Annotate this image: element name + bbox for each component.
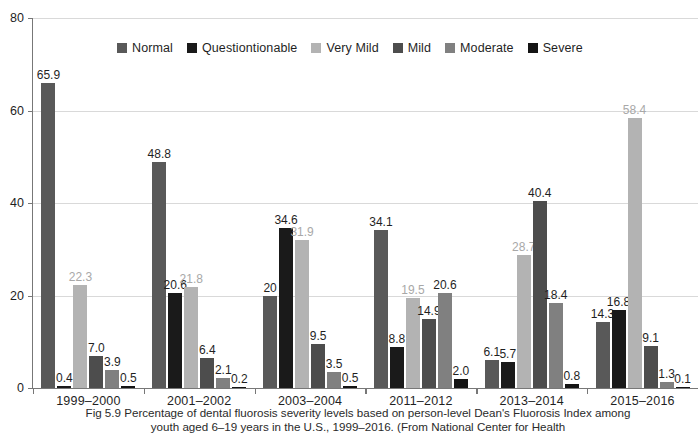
bar-slot: 1.3 xyxy=(660,18,674,388)
bar-slot: 0.4 xyxy=(57,18,71,388)
bar-value-label: 0.4 xyxy=(56,372,73,384)
bar-slot: 9.5 xyxy=(311,18,325,388)
bar-slot: 5.7 xyxy=(501,18,515,388)
bar-group: 65.90.422.37.03.90.5 xyxy=(33,18,144,388)
bar-slot: 0.5 xyxy=(121,18,135,388)
bar-slot: 34.1 xyxy=(374,18,388,388)
caption-line-1: Percentage of dental fluorosis severity … xyxy=(121,406,560,419)
bar-slot: 34.6 xyxy=(279,18,293,388)
bar-value-label: 8.8 xyxy=(389,333,406,345)
y-tick-label: 20 xyxy=(10,289,24,303)
bar-group: 2034.631.99.53.50.5 xyxy=(255,18,366,388)
bar[interactable] xyxy=(152,162,166,388)
y-tick-label: 80 xyxy=(10,11,24,25)
bar-value-label: 2.0 xyxy=(453,365,470,377)
bar[interactable] xyxy=(216,378,230,388)
plot-wrapper: 020406080 65.90.422.37.03.90.548.820.621… xyxy=(0,0,700,392)
bar-slot: 0.2 xyxy=(232,18,246,388)
bar-value-label: 6.1 xyxy=(483,346,500,358)
caption-figure-number: Fig 5.9 xyxy=(86,406,121,419)
bar-slot: 2.1 xyxy=(216,18,230,388)
bar-slot: 3.5 xyxy=(327,18,341,388)
bar-slot: 20.6 xyxy=(438,18,452,388)
bar[interactable] xyxy=(89,356,103,388)
bar-slot: 58.4 xyxy=(628,18,642,388)
bar[interactable] xyxy=(295,240,309,388)
bar[interactable] xyxy=(311,344,325,388)
figure-caption: Fig 5.9 Percentage of dental fluorosis s… xyxy=(78,406,638,435)
bar-slot: 65.9 xyxy=(41,18,55,388)
bar[interactable] xyxy=(184,287,198,388)
bar-value-label: 0.1 xyxy=(674,373,691,385)
bar[interactable] xyxy=(517,255,531,388)
bar[interactable] xyxy=(73,285,87,388)
bar-value-label: 9.5 xyxy=(310,330,327,342)
bar[interactable] xyxy=(565,384,579,388)
bar[interactable] xyxy=(232,387,246,389)
bar-slot: 20.6 xyxy=(168,18,182,388)
bar-slot: 20 xyxy=(263,18,277,388)
bar-slot: 16.8 xyxy=(612,18,626,388)
bar-value-label: 1.3 xyxy=(658,368,675,380)
bar-value-label: 0.5 xyxy=(342,372,359,384)
bar-group: 48.820.621.86.42.10.2 xyxy=(144,18,255,388)
bar[interactable] xyxy=(263,296,277,389)
bar[interactable] xyxy=(501,362,515,388)
bar[interactable] xyxy=(374,230,388,388)
bar-slot: 0.1 xyxy=(676,18,690,388)
bar[interactable] xyxy=(660,382,674,388)
bar[interactable] xyxy=(485,360,499,388)
bar-value-label: 0.2 xyxy=(231,373,248,385)
bar-slot: 22.3 xyxy=(73,18,87,388)
bar[interactable] xyxy=(454,379,468,388)
bar-groups: 65.90.422.37.03.90.548.820.621.86.42.10.… xyxy=(33,18,698,388)
bar[interactable] xyxy=(438,293,452,388)
figure-container: NormalQuestiontionableVery MildMildModer… xyxy=(0,0,700,444)
bar-slot: 0.5 xyxy=(343,18,357,388)
bar-group: 34.18.819.514.920.62.0 xyxy=(365,18,476,388)
bar-value-label: 3.5 xyxy=(326,358,343,370)
bar-slot: 18.4 xyxy=(549,18,563,388)
bar[interactable] xyxy=(105,370,119,388)
bar-slot: 40.4 xyxy=(533,18,547,388)
bar-slot: 6.4 xyxy=(200,18,214,388)
bar-value-label: 6.4 xyxy=(199,344,216,356)
bar-value-label: 2.1 xyxy=(215,364,232,376)
bar-value-label: 9.1 xyxy=(642,332,659,344)
bar[interactable] xyxy=(644,346,658,388)
bar-value-label: 20 xyxy=(263,282,276,294)
y-tick-label: 0 xyxy=(17,381,24,395)
bar-slot: 3.9 xyxy=(105,18,119,388)
bar-slot: 14.9 xyxy=(422,18,436,388)
bar-value-label: 5.7 xyxy=(499,348,516,360)
bar[interactable] xyxy=(549,303,563,388)
bar-slot: 0.8 xyxy=(565,18,579,388)
bar[interactable] xyxy=(343,386,357,388)
bar-slot: 8.8 xyxy=(390,18,404,388)
bar[interactable] xyxy=(628,118,642,388)
bar-slot: 19.5 xyxy=(406,18,420,388)
bar-slot: 28.7 xyxy=(517,18,531,388)
bar[interactable] xyxy=(390,347,404,388)
bar[interactable] xyxy=(200,358,214,388)
bar[interactable] xyxy=(57,386,71,388)
bar-slot: 31.9 xyxy=(295,18,309,388)
bar[interactable] xyxy=(41,83,55,388)
bar-value-label: 0.5 xyxy=(120,372,137,384)
bar[interactable] xyxy=(168,293,182,388)
bar[interactable] xyxy=(279,228,293,388)
bar-slot: 14.3 xyxy=(596,18,610,388)
y-tick-label: 40 xyxy=(10,196,24,210)
bar-slot: 21.8 xyxy=(184,18,198,388)
bar[interactable] xyxy=(327,372,341,388)
bar-slot: 7.0 xyxy=(89,18,103,388)
bar[interactable] xyxy=(596,322,610,388)
bar-value-label: 7.0 xyxy=(88,342,105,354)
bar-slot: 9.1 xyxy=(644,18,658,388)
bar[interactable] xyxy=(121,386,135,388)
bar[interactable] xyxy=(612,310,626,388)
bar-value-label: 0.8 xyxy=(563,370,580,382)
bar[interactable] xyxy=(422,319,436,388)
bar-slot: 2.0 xyxy=(454,18,468,388)
bar[interactable] xyxy=(676,387,690,389)
